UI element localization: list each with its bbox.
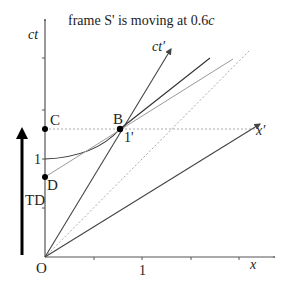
ct-prime-axis [45,49,171,257]
ct-axis-tip [44,19,46,21]
point-d-label: D [47,177,58,193]
x-prime-axis [45,124,260,257]
light-line [45,50,250,257]
x-tick-label-1: 1 [139,263,146,278]
point-b-label: B [113,111,123,127]
diagram-title: frame S' is moving at 0.6c [68,13,215,28]
x-axis-label: x [249,257,257,272]
point-c [42,126,48,132]
x-prime-axis-label: x′ [255,123,266,138]
time-direction-arrow-icon [16,127,28,139]
spacetime-diagram: frame S' is moving at 0.6c ct 1 x 1 O ct… [0,0,286,290]
x-axis-tip [273,256,275,258]
tangent-line-d [45,59,233,177]
origin-label: O [36,260,47,276]
ct-axis-label: ct [28,27,39,42]
one-prime-label: 1' [124,130,134,145]
point-c-label: C [50,112,60,128]
ct-prime-axis-label: ct′ [152,39,166,54]
td-label: TD [25,192,45,208]
ct-tick-label-1: 1 [34,152,41,167]
